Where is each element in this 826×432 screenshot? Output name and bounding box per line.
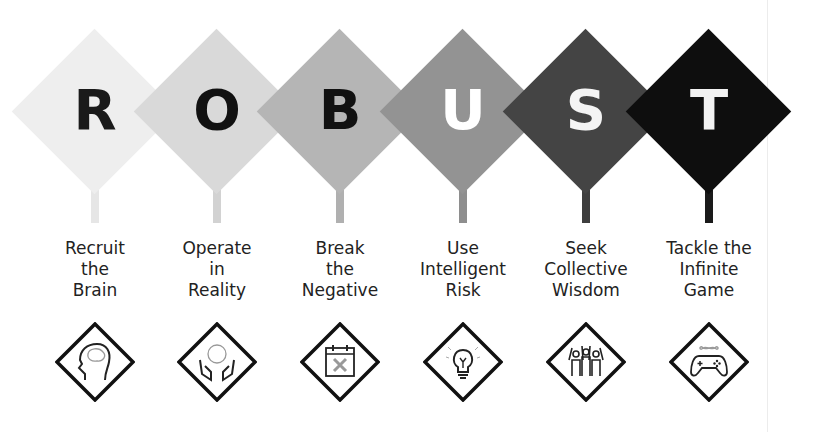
group-people-icon	[546, 322, 626, 402]
hands-globe-icon	[177, 322, 257, 402]
step-label: Tackle the Infinite Game	[624, 238, 794, 301]
game-controller-infinity-icon	[669, 322, 749, 402]
stem	[91, 190, 99, 223]
lightbulb-icon	[423, 322, 503, 402]
calendar-x-icon	[300, 322, 380, 402]
stem	[213, 190, 221, 223]
stem	[705, 190, 713, 223]
label-line: Infinite	[624, 259, 794, 280]
stem	[582, 190, 590, 223]
stem	[459, 190, 467, 223]
step-t: T Tackle the Infinite Game	[624, 0, 794, 432]
brain-head-icon	[55, 322, 135, 402]
label-line: Tackle the	[624, 238, 794, 259]
stem	[336, 190, 344, 223]
step-letter: T	[624, 78, 794, 142]
label-line: Game	[624, 280, 794, 301]
